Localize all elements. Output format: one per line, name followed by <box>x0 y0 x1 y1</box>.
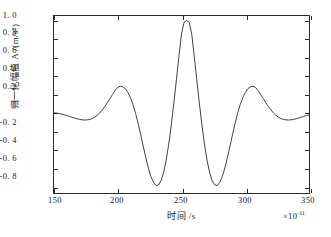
x-axis-multiplier: ×10-11 <box>283 210 305 221</box>
x-tick-mark <box>183 189 184 193</box>
ytick-label: -0. 6 <box>0 154 17 163</box>
x-tick-mark <box>183 16 184 20</box>
y-tick-mark <box>54 21 58 22</box>
y-tick-mark <box>54 113 58 114</box>
y-tick-mark <box>54 150 58 151</box>
y-tick-mark <box>305 21 309 22</box>
chart-figure: 1. 0 0. 8 0. 6 0. 4 0. 2 0 -0. 2 -0. 4 -… <box>0 0 331 237</box>
x-tick-mark <box>311 16 312 20</box>
y-tick-mark <box>54 95 58 96</box>
x-axis-title: 时间 /s <box>53 209 310 222</box>
x-tick-mark <box>118 16 119 20</box>
ytick-label: -0. 8 <box>0 172 17 181</box>
xtick-label: 350 <box>301 196 315 205</box>
x-tick-mark <box>247 189 248 193</box>
y-tick-mark <box>54 169 58 170</box>
y-tick-mark <box>305 39 309 40</box>
data-curve <box>54 16 309 193</box>
multiplier-base: ×10 <box>283 211 297 221</box>
x-tick-mark <box>54 16 55 20</box>
y-tick-mark <box>305 188 309 189</box>
x-tick-mark <box>311 189 312 193</box>
xtick-label: 250 <box>174 196 188 205</box>
y-tick-mark <box>305 58 309 59</box>
y-tick-mark <box>305 169 309 170</box>
xtick-label: 200 <box>110 196 124 205</box>
y-tick-mark <box>305 150 309 151</box>
y-tick-mark <box>54 76 58 77</box>
xtick-label: 150 <box>48 196 62 205</box>
x-tick-mark <box>54 189 55 193</box>
x-tick-mark <box>247 16 248 20</box>
y-tick-mark <box>305 132 309 133</box>
xtick-label: 300 <box>238 196 252 205</box>
y-tick-mark <box>305 76 309 77</box>
y-tick-mark <box>54 39 58 40</box>
y-axis-title: 归一化幅值 A /(m/s²) <box>8 0 21 142</box>
y-tick-mark <box>54 58 58 59</box>
x-tick-mark <box>118 189 119 193</box>
y-tick-mark <box>305 95 309 96</box>
plot-area <box>53 15 310 194</box>
y-tick-mark <box>305 113 309 114</box>
y-tick-mark <box>54 132 58 133</box>
multiplier-exponent: -11 <box>297 210 305 216</box>
